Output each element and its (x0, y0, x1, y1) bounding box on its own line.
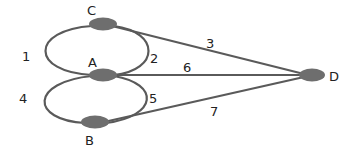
graph-svg: C A B D 1 2 3 4 5 6 7 (0, 0, 357, 156)
edge-4 (45, 76, 92, 123)
node-d (299, 69, 325, 82)
node-a (89, 69, 117, 82)
node-label-d: D (329, 69, 339, 84)
edge-label-2: 2 (150, 51, 158, 66)
edge-label-4: 4 (19, 91, 27, 106)
edge-label-5: 5 (149, 91, 157, 106)
edge-label-6: 6 (183, 60, 191, 75)
node-label-c: C (87, 3, 96, 18)
edge-7 (104, 77, 304, 122)
edge-label-3: 3 (206, 36, 214, 51)
node-label-a: A (88, 55, 97, 70)
graph-diagram: C A B D 1 2 3 4 5 6 7 (0, 0, 357, 156)
edge-label-1: 1 (22, 49, 30, 64)
node-c (89, 18, 117, 31)
edge-1 (46, 26, 93, 75)
node-label-b: B (85, 133, 94, 148)
node-b (81, 116, 109, 129)
edge-label-7: 7 (210, 104, 218, 119)
